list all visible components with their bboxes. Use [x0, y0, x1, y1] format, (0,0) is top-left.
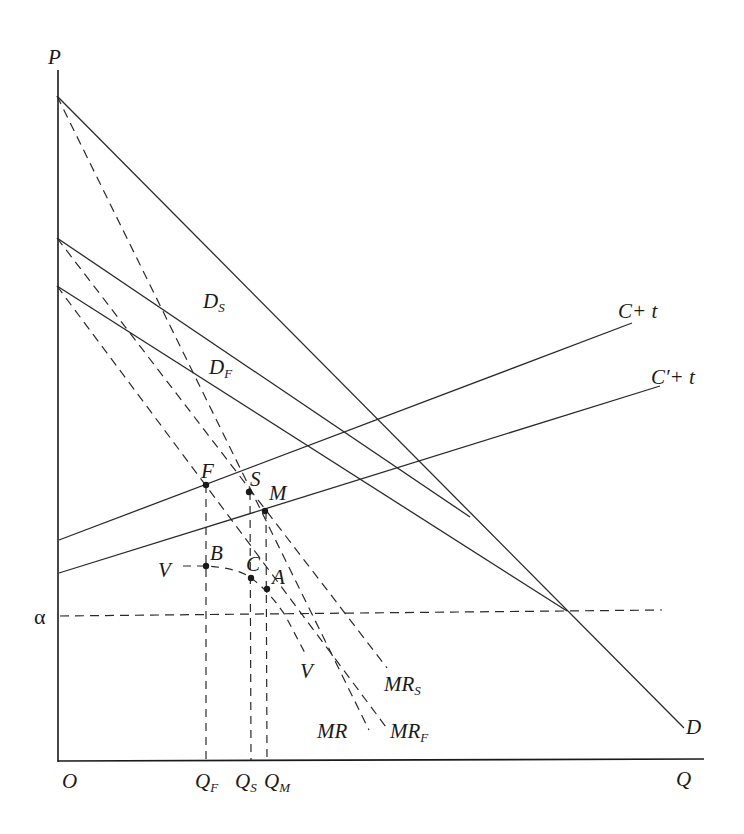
c-plus-t-label: C+ t — [618, 299, 658, 323]
df-label-main: D — [208, 355, 224, 379]
point-m — [262, 508, 268, 514]
q-axis — [58, 759, 704, 761]
qf-label-sub: F — [209, 780, 219, 795]
demand-curve-df — [57, 286, 567, 611]
qs-label-main: Q — [235, 769, 250, 793]
qs-label: QS — [235, 769, 257, 795]
ds-label-sub: S — [218, 300, 225, 315]
point-c-label: C — [246, 552, 261, 576]
c-prime-plus-t-label: C′+ t — [651, 365, 696, 389]
cost-curve-c-prime-plus-t — [59, 386, 660, 573]
point-f-label: F — [200, 459, 214, 483]
v-left-label: V — [158, 558, 173, 582]
origin-label: O — [62, 769, 77, 793]
point-s-label: S — [250, 467, 261, 491]
mr-f-label-main: MR — [389, 719, 420, 743]
p-axis-label: P — [47, 45, 61, 69]
qm-label-sub: M — [278, 780, 291, 795]
ds-label: DS — [202, 289, 225, 315]
demand-curve-ds — [57, 238, 470, 517]
v-curve — [183, 566, 306, 655]
mr-f-label-sub: F — [419, 730, 429, 745]
qm-label-main: Q — [264, 769, 279, 793]
diagram-svg: P Q O α D DS DF C+ t C′+ t MR MRS MRF V … — [0, 0, 744, 834]
mr-f-label: MRF — [389, 719, 429, 745]
point-b — [203, 563, 209, 569]
alpha-label: α — [34, 604, 46, 629]
qm-drop-line — [266, 511, 267, 760]
economics-diagram: P Q O α D DS DF C+ t C′+ t MR MRS MRF V … — [0, 0, 744, 834]
qs-label-sub: S — [250, 780, 257, 795]
qm-label: QM — [264, 769, 291, 795]
qf-label-main: Q — [195, 769, 210, 793]
mr-s-label: MRS — [383, 672, 421, 698]
mr-label: MR — [316, 719, 347, 743]
qf-label: QF — [195, 769, 219, 795]
point-m-label: M — [268, 481, 288, 505]
q-axis-label: Q — [676, 767, 691, 791]
df-label-sub: F — [223, 366, 233, 381]
d-label: D — [685, 715, 701, 739]
mr-f-line — [57, 286, 389, 731]
ds-label-main: D — [202, 289, 218, 313]
point-a-label: A — [270, 565, 285, 589]
mr-s-label-sub: S — [414, 683, 421, 698]
point-a — [264, 586, 270, 592]
point-b-label: B — [210, 541, 223, 565]
mr-s-label-main: MR — [383, 672, 414, 696]
qs-drop-line — [250, 492, 251, 760]
df-label: DF — [208, 355, 233, 381]
v-bottom-label: V — [300, 659, 315, 683]
cost-curve-c-plus-t — [59, 323, 632, 540]
mr-line — [57, 96, 369, 730]
